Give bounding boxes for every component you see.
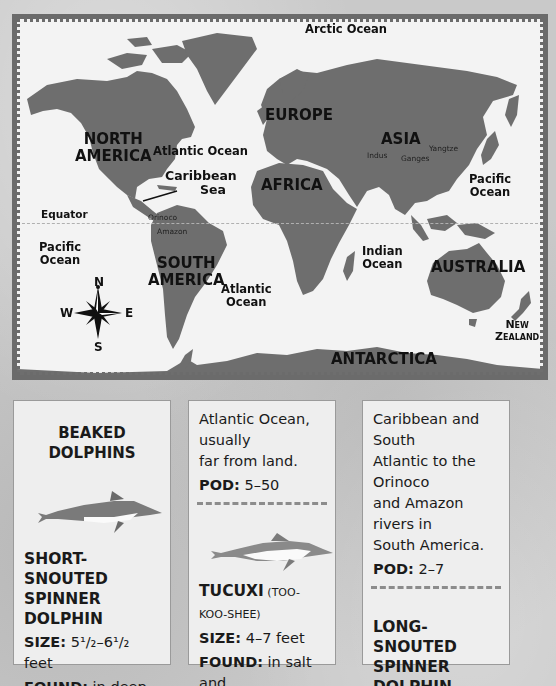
label-indian-ocean: Indian Ocean bbox=[362, 245, 403, 270]
found-continued: Atlantic to the Orinoco bbox=[373, 451, 499, 493]
label-pacific-ocean-east: Pacific Ocean bbox=[469, 173, 511, 198]
label-europe: EUROPE bbox=[265, 107, 333, 124]
label-ganges-river: Ganges bbox=[401, 155, 429, 163]
compass-north: N bbox=[94, 276, 104, 289]
label-caribbean-sea: Caribbean Sea bbox=[165, 169, 237, 197]
found-continued: Caribbean and South bbox=[373, 409, 499, 451]
label-africa: AFRICA bbox=[261, 177, 323, 194]
label-atlantic-ocean-north: Atlantic Ocean bbox=[153, 145, 248, 158]
greenland-shape bbox=[182, 33, 257, 105]
found-continued: and Amazon rivers in bbox=[373, 493, 499, 535]
card-long-snouted-spinner: Caribbean and South Atlantic to the Orin… bbox=[362, 400, 510, 665]
label-equator: Equator bbox=[41, 209, 88, 221]
card-beaked-dolphins: BEAKED DOLPHINS SHORT- SNOUTED SPINNER D… bbox=[13, 400, 171, 665]
label-amazon-river: Amazon bbox=[157, 228, 187, 236]
found-continued: South America. bbox=[373, 535, 499, 556]
found-continued: Atlantic Ocean, usually bbox=[199, 409, 325, 451]
label-arctic-ocean: Arctic Ocean bbox=[305, 23, 387, 36]
species-name: LONG-SNOUTED SPINNER DOLPHIN bbox=[373, 617, 499, 686]
dashed-divider bbox=[197, 502, 327, 505]
label-antarctica: ANTARCTICA bbox=[331, 351, 437, 368]
compass-rose-icon bbox=[74, 285, 122, 339]
label-orinoco-river: Orinoco bbox=[148, 214, 177, 222]
card-tucuxi: Atlantic Ocean, usually far from land. P… bbox=[188, 400, 336, 665]
world-map: Arctic Ocean Atlantic Ocean Caribbean Se… bbox=[12, 14, 548, 380]
compass-south: S bbox=[94, 341, 103, 354]
label-atlantic-ocean-south: Atlantic Ocean bbox=[221, 283, 272, 308]
label-north-america: NORTH AMERICA bbox=[75, 131, 152, 164]
species-name-row: TUCUXI (TOO-KOO-SHEE) bbox=[199, 581, 325, 625]
label-australia: AUSTRALIA bbox=[431, 259, 525, 276]
new-zealand-shape bbox=[511, 291, 531, 321]
found-row: FOUND: in salt and bbox=[199, 652, 325, 686]
label-pacific-ocean-west: Pacific Ocean bbox=[39, 241, 81, 266]
pod-row: POD: 5–50 bbox=[199, 475, 325, 496]
tucuxi-illustration bbox=[207, 527, 337, 575]
label-new-zealand: New Zealand bbox=[495, 319, 539, 343]
label-south-america: SOUTH AMERICA bbox=[148, 255, 225, 288]
label-asia: ASIA bbox=[381, 131, 421, 148]
pod-row: POD: 2–7 bbox=[373, 559, 499, 580]
size-row: SIZE: 4–7 feet bbox=[199, 628, 325, 649]
label-indus-river: Indus bbox=[367, 152, 387, 160]
compass-east: E bbox=[125, 307, 133, 320]
short-snouted-spinner-dolphin-illustration bbox=[34, 487, 170, 537]
size-row: SIZE: 5¹/₂–6¹/₂ feet bbox=[24, 632, 160, 674]
compass-west: W bbox=[60, 307, 73, 320]
australia-shape bbox=[427, 243, 505, 313]
section-heading: BEAKED DOLPHINS bbox=[24, 423, 160, 463]
found-continued: far from land. bbox=[199, 451, 325, 472]
continents-shapes bbox=[17, 19, 543, 375]
found-row: FOUND: in deep, bbox=[24, 677, 160, 686]
map-canvas: Arctic Ocean Atlantic Ocean Caribbean Se… bbox=[17, 19, 543, 375]
equator-line bbox=[17, 223, 543, 224]
species-name: SHORT- SNOUTED SPINNER DOLPHIN bbox=[24, 549, 160, 629]
label-yangtze-river: Yangtze bbox=[429, 145, 458, 153]
